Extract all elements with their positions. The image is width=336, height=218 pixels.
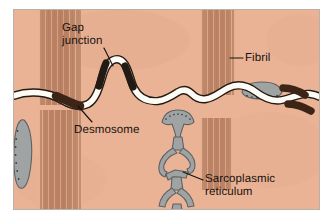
- label-sarcoplasmic-reticulum-line1: Sarcoplasmic: [205, 173, 275, 185]
- label-desmosome: Desmosome: [74, 124, 139, 137]
- label-fibril-line1: Fibril: [245, 52, 271, 64]
- sarcoplasmic-reticulum-left-vesicle: [14, 120, 32, 189]
- label-desmosome-line1: Desmosome: [74, 124, 139, 136]
- label-gap-junction-line1: Gap: [62, 22, 84, 34]
- fibril-bundle-upper-right: [200, 9, 236, 95]
- label-gap-junction-line2: junction: [62, 35, 102, 47]
- histology-figure: Gapjunction Desmosome Fibril Sarcoplasmi…: [0, 0, 336, 218]
- diagram-canvas: [0, 0, 336, 218]
- label-sarcoplasmic-reticulum: Sarcoplasmicreticulum: [205, 173, 275, 198]
- label-fibril: Fibril: [245, 52, 271, 65]
- label-sarcoplasmic-reticulum-line2: reticulum: [205, 186, 253, 198]
- label-gap-junction: Gapjunction: [62, 22, 102, 47]
